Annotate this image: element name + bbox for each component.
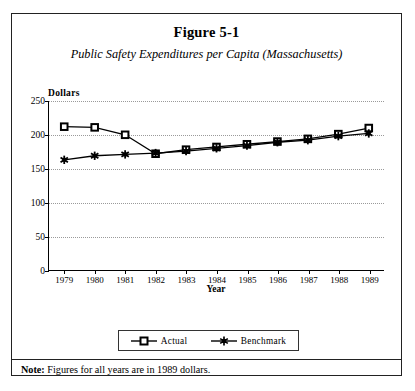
- x-tick-mark: [339, 270, 340, 274]
- y-tick-label: 250: [31, 96, 45, 106]
- note-label: Note:: [21, 364, 45, 375]
- plot-area: 050100150200250 197919801981198219831984…: [48, 101, 384, 271]
- x-tick-mark: [370, 270, 371, 274]
- data-point-marker: [122, 132, 129, 139]
- y-tick-label: 0: [40, 266, 45, 276]
- figure-frame: Figure 5-1 Public Safety Expenditures pe…: [11, 13, 402, 376]
- x-tick-mark: [186, 270, 187, 274]
- y-tick-label: 200: [31, 130, 45, 140]
- x-tick-mark: [217, 270, 218, 274]
- x-tick-mark: [248, 270, 249, 274]
- x-tick-mark: [278, 270, 279, 274]
- x-tick-mark: [309, 270, 310, 274]
- note-text: Figures for all years are in 1989 dollar…: [45, 364, 211, 375]
- x-axis-title: Year: [48, 284, 384, 294]
- series-plot: [49, 101, 384, 270]
- legend-label-actual: Actual: [161, 336, 188, 346]
- y-tick-label: 100: [31, 198, 45, 208]
- y-tick-label: 150: [31, 164, 45, 174]
- data-point-marker: [91, 124, 98, 131]
- note-divider: [12, 359, 401, 360]
- series-benchmark: [61, 129, 373, 164]
- chart-legend: Actual Benchmark: [118, 330, 299, 351]
- x-tick-mark: [95, 270, 96, 274]
- figure-note: Note: Figures for all years are in 1989 …: [21, 364, 210, 375]
- figure-title: Figure 5-1: [12, 24, 401, 41]
- legend-item-actual: Actual: [131, 336, 188, 346]
- y-tick-mark: [45, 271, 49, 272]
- data-point-marker: [61, 123, 68, 130]
- x-tick-mark: [156, 270, 157, 274]
- title-block: Figure 5-1 Public Safety Expenditures pe…: [12, 24, 401, 62]
- y-tick-label: 50: [36, 232, 46, 242]
- open-square-marker-icon: [131, 336, 157, 346]
- chart-plot-wrapper: Dollars 050100150200250 1979198019811982…: [12, 88, 403, 303]
- legend-item-benchmark: Benchmark: [211, 336, 287, 346]
- x-tick-mark: [125, 270, 126, 274]
- figure-subtitle: Public Safety Expenditures per Capita (M…: [12, 47, 401, 62]
- x-tick-mark: [64, 270, 65, 274]
- legend-label-benchmark: Benchmark: [241, 336, 287, 346]
- y-axis-title: Dollars: [48, 88, 80, 98]
- filled-star-marker-icon: [211, 336, 237, 346]
